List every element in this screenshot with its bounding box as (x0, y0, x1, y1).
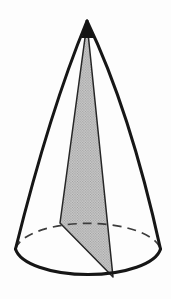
base-front-rim (16, 249, 161, 275)
cone-diagram-page (0, 0, 171, 299)
cone-diagram-svg (0, 0, 171, 299)
cone-figure (0, 0, 171, 299)
